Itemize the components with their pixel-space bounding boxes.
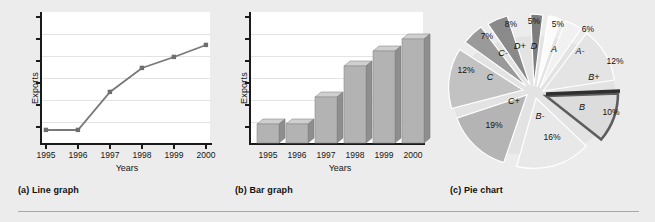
pie-label-A: A: [550, 44, 557, 54]
bar-column: [373, 46, 401, 143]
caption-pie-chart: (c) Pie chart: [450, 185, 503, 195]
pie-pct-C-plus: 19%: [485, 120, 502, 130]
bar-y-axis-label: Exports: [239, 72, 249, 104]
panel-pie-chart: 5% 5% 6% 12% 10% 16% 19% 12% 7% 8% D A A…: [430, 0, 655, 200]
pie-pct-B-plus: 12%: [606, 56, 623, 66]
pie-label-B-plus: B+: [588, 72, 599, 82]
pie-pct-C: 12%: [457, 65, 474, 75]
pie-label-C: C: [487, 72, 494, 82]
line-x-axis-label: Years: [82, 163, 172, 173]
panel-line-graph: Exports 1995 1996 1997 1998 1999 2000 Ye…: [0, 0, 215, 200]
bar-column: [286, 119, 314, 143]
bar-column: [344, 61, 372, 143]
pie-pct-A-minus: 6%: [582, 24, 595, 34]
bar-column: [402, 34, 430, 143]
bar-column: [315, 92, 343, 143]
line-y-axis-label: Exports: [30, 72, 40, 104]
bar-x-axis-label: Years: [295, 163, 385, 173]
line-x-tick-label: 1998: [124, 150, 160, 160]
pie-pct-B: 10%: [602, 107, 619, 117]
pie-label-B-minus: B-: [536, 111, 545, 121]
figure-three-chart-types: Exports 1995 1996 1997 1998 1999 2000 Ye…: [0, 0, 655, 222]
line-x-tick-label: 1999: [156, 150, 192, 160]
pie-pct-D: 5%: [528, 16, 541, 26]
panel-bar-graph: Exports 1995 1996 1997 1998 1999 2000 Ye…: [215, 0, 430, 200]
bar-column: [257, 119, 285, 143]
pie-label-B: B: [579, 102, 585, 112]
bar-x-tick-label: 2000: [395, 150, 431, 160]
pie-chart-graphic: 5% 5% 6% 12% 10% 16% 19% 12% 7% 8% D A A…: [430, 0, 655, 175]
pie-pct-C-minus: 7%: [481, 31, 494, 41]
line-x-tick-label: 1996: [60, 150, 96, 160]
pie-label-D: D: [531, 41, 538, 51]
pie-label-C-plus: C+: [508, 96, 520, 106]
pie-pct-A: 5%: [552, 19, 565, 29]
pie-label-C-minus: C-: [498, 48, 508, 58]
caption-line-graph: (a) Line graph: [18, 185, 79, 195]
pie-pct-B-minus: 16%: [543, 132, 560, 142]
bottom-divider: [18, 211, 639, 212]
pie-label-A-minus: A-: [575, 46, 585, 56]
caption-bar-graph: (b) Bar graph: [235, 185, 293, 195]
line-x-tick-label: 1995: [28, 150, 64, 160]
pie-label-D-plus: D+: [514, 41, 526, 51]
line-x-tick-label: 1997: [92, 150, 128, 160]
pie-pct-D-plus: 8%: [505, 19, 518, 29]
